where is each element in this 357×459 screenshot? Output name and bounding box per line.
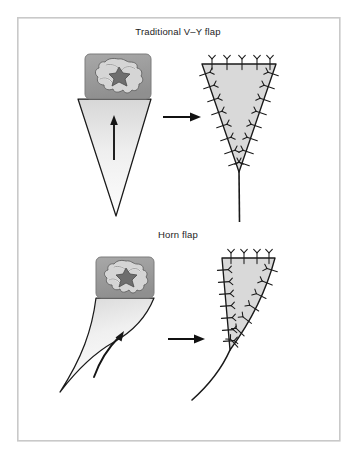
panel-label-vy: Traditional V–Y flap xyxy=(135,26,220,37)
lesion-block-vy xyxy=(85,54,151,99)
vy-closure-limb xyxy=(239,171,240,222)
figure-root: Traditional V–Y flap xyxy=(0,0,357,459)
panel-label-horn: Horn flap xyxy=(158,229,198,240)
lesion-block-horn xyxy=(96,257,154,298)
flap-diagram-svg: Traditional V–Y flap xyxy=(0,0,357,459)
